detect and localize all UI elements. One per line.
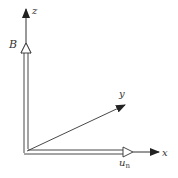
x-axis-label: x	[162, 147, 168, 158]
z-axis-label: z	[31, 5, 38, 16]
un-vector-arrow	[24, 147, 133, 157]
axes-diagram: z B y x un	[0, 0, 178, 178]
y-axis-label: y	[118, 88, 125, 99]
y-axis	[27, 105, 125, 151]
diagram-canvas: z B y x un	[0, 0, 178, 178]
B-vector-label: B	[8, 38, 17, 51]
B-vector-arrow	[21, 43, 31, 153]
un-vector-label: un	[119, 157, 130, 170]
